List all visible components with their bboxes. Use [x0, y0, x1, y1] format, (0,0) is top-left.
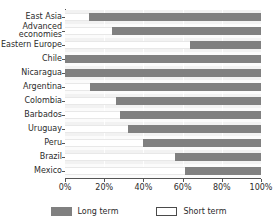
- bar-segment-long-term: [185, 167, 261, 175]
- bar-row: [65, 24, 261, 38]
- bar-row: [65, 122, 261, 136]
- bar-track: [65, 139, 261, 147]
- y-axis-tick: [62, 115, 65, 116]
- x-axis-tick-label: 100%: [250, 183, 273, 193]
- bar-track: [65, 27, 261, 35]
- gridline: [261, 10, 262, 178]
- bar-row: [65, 10, 261, 24]
- category-label: Brazil: [0, 150, 62, 164]
- bar-track: [65, 55, 261, 63]
- bar-segment-long-term: [175, 153, 261, 161]
- bar-row: [65, 52, 261, 66]
- category-label: Colombia: [0, 94, 62, 108]
- y-axis-tick: [62, 17, 65, 18]
- x-axis-tick-label: 80%: [213, 183, 231, 193]
- chart-legend: Long termShort term: [0, 203, 277, 219]
- category-label: Peru: [0, 136, 62, 150]
- plot-region: [65, 10, 261, 178]
- bar-segment-long-term: [65, 55, 261, 63]
- bar-row: [65, 150, 261, 164]
- bar-track: [65, 69, 261, 77]
- y-axis-tick: [62, 59, 65, 60]
- category-label: Barbados: [0, 108, 62, 122]
- bar-segment-long-term: [65, 69, 261, 77]
- bar-track: [65, 125, 261, 133]
- bar-segment-long-term: [190, 41, 261, 49]
- category-label: Nicaragua: [0, 66, 62, 80]
- category-axis: East AsiaAdvancedeconomiesEastern Europe…: [0, 10, 62, 178]
- bar-segment-short-term: [65, 125, 128, 133]
- bar-segment-short-term: [65, 167, 185, 175]
- x-axis-tick: [143, 179, 144, 182]
- bar-segment-short-term: [65, 139, 143, 147]
- category-label: Advancedeconomies: [0, 24, 62, 38]
- legend-entry[interactable]: Short term: [156, 207, 226, 216]
- x-axis-tick-label: 0%: [59, 183, 72, 193]
- bar-segment-short-term: [65, 27, 112, 35]
- category-label: Eastern Europe: [0, 38, 62, 52]
- bar-segment-short-term: [65, 41, 190, 49]
- bar-track: [65, 83, 261, 91]
- bar-track: [65, 111, 261, 119]
- y-axis-tick: [62, 87, 65, 88]
- bar-row: [65, 80, 261, 94]
- x-axis-tick: [183, 179, 184, 182]
- legend-label: Short term: [183, 207, 226, 216]
- x-axis-tick: [65, 179, 66, 182]
- bar-segment-short-term: [65, 13, 89, 21]
- x-axis-tick: [222, 179, 223, 182]
- y-axis-tick: [62, 157, 65, 158]
- y-axis-tick: [62, 143, 65, 144]
- bar-segment-short-term: [65, 111, 120, 119]
- y-axis-tick: [62, 45, 65, 46]
- bar-track: [65, 97, 261, 105]
- category-label: Chile: [0, 52, 62, 66]
- category-label: Argentina: [0, 80, 62, 94]
- bar-row: [65, 94, 261, 108]
- bar-row: [65, 66, 261, 80]
- x-axis: 0%20%40%60%80%100%: [0, 179, 277, 195]
- y-axis-tick: [62, 73, 65, 74]
- bar-segment-long-term: [128, 125, 261, 133]
- category-label: Uruguay: [0, 122, 62, 136]
- x-axis-tick-label: 20%: [95, 183, 113, 193]
- legend-entry[interactable]: Long term: [51, 207, 119, 216]
- y-axis-tick: [62, 101, 65, 102]
- x-axis-tick-label: 60%: [174, 183, 192, 193]
- bar-track: [65, 13, 261, 21]
- bar-segment-short-term: [65, 153, 175, 161]
- bar-track: [65, 153, 261, 161]
- bar-track: [65, 167, 261, 175]
- y-axis-tick: [62, 171, 65, 172]
- y-axis-tick: [62, 129, 65, 130]
- bar-segment-long-term: [89, 13, 261, 21]
- bar-row: [65, 164, 261, 178]
- legend-label: Long term: [78, 207, 119, 216]
- bar-segment-short-term: [65, 97, 116, 105]
- bar-segment-long-term: [112, 27, 261, 35]
- bar-track: [65, 41, 261, 49]
- bar-row: [65, 136, 261, 150]
- bar-segment-short-term: [65, 83, 90, 91]
- bar-segment-long-term: [116, 97, 261, 105]
- bar-row: [65, 38, 261, 52]
- x-axis-tick: [261, 179, 262, 182]
- bar-row: [65, 108, 261, 122]
- category-label: Mexico: [0, 164, 62, 178]
- y-axis-tick: [62, 31, 65, 32]
- bar-segment-long-term: [90, 83, 261, 91]
- stacked-bar-chart: East AsiaAdvancedeconomiesEastern Europe…: [0, 0, 277, 224]
- short-term-swatch: [156, 207, 177, 216]
- bar-segment-long-term: [120, 111, 261, 119]
- long-term-swatch: [51, 207, 72, 216]
- bar-segment-long-term: [143, 139, 261, 147]
- x-axis-tick: [104, 179, 105, 182]
- x-axis-tick-label: 40%: [135, 183, 153, 193]
